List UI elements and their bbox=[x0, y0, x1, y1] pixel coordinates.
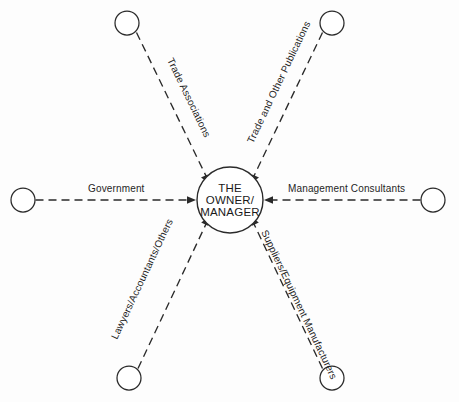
hub-label-line-2: OWNER/ bbox=[206, 194, 255, 206]
spoke-trade-associations[interactable]: Trade Associations bbox=[115, 11, 213, 184]
spoke-line-suppliers-equipment-manufacturers bbox=[254, 223, 323, 369]
node-circle-trade-and-other-publications[interactable] bbox=[320, 11, 344, 35]
edge-label-trade-associations: Trade Associations bbox=[165, 56, 213, 139]
node-circle-management-consultants[interactable] bbox=[421, 188, 445, 212]
node-circle-government[interactable] bbox=[11, 188, 35, 212]
spoke-government[interactable]: Government bbox=[11, 183, 196, 212]
arrow-head-government bbox=[187, 196, 196, 204]
edge-label-trade-and-other-publications: Trade and Other Publications bbox=[245, 19, 313, 145]
spoke-line-lawyers-accountants-others bbox=[138, 223, 207, 369]
spoke-management-consultants[interactable]: Management Consultants bbox=[264, 183, 445, 212]
edge-label-government: Government bbox=[88, 183, 145, 194]
node-circle-trade-associations[interactable] bbox=[115, 11, 139, 35]
arrow-head-management-consultants bbox=[264, 196, 273, 204]
hub-label-line-1: THE bbox=[218, 182, 242, 194]
radial-information-sources-diagram: Trade Associations Trade and Other Publi… bbox=[0, 0, 459, 402]
edge-label-management-consultants: Management Consultants bbox=[288, 183, 405, 194]
hub-node[interactable]: THE OWNER/ MANAGER bbox=[197, 167, 263, 233]
node-circle-lawyers-accountants-others[interactable] bbox=[117, 366, 141, 390]
edge-label-lawyers-accountants-others: Lawyers/Accountants/Others bbox=[109, 217, 175, 341]
spoke-suppliers-equipment-manufacturers[interactable]: Suppliers/Equipment Manufacturers bbox=[251, 217, 345, 391]
hub-label-line-3: MANAGER bbox=[200, 206, 260, 218]
spoke-lawyers-accountants-others[interactable]: Lawyers/Accountants/Others bbox=[109, 217, 210, 391]
spoke-trade-and-other-publications[interactable]: Trade and Other Publications bbox=[245, 11, 344, 184]
edge-label-suppliers-equipment-manufacturers: Suppliers/Equipment Manufacturers bbox=[259, 228, 339, 381]
diagram-canvas: Trade Associations Trade and Other Publi… bbox=[0, 0, 459, 402]
